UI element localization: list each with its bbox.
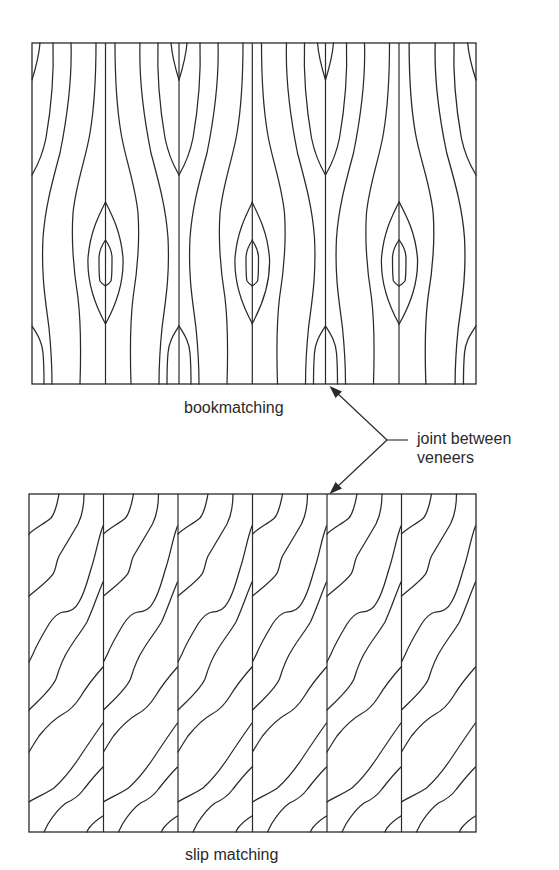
bookmatch-veneer-1: [32, 43, 106, 384]
slip-matching-caption: slip matching: [185, 845, 278, 864]
slip-matching-panel: [29, 494, 476, 832]
joint-callout-leader: [330, 386, 409, 494]
bookmatching-caption: bookmatching: [184, 398, 284, 417]
slip-veneer-4: [253, 494, 327, 832]
leader-to-slip-joint: [336, 440, 387, 488]
slip-veneer-5: [327, 494, 401, 832]
joint-callout-line-1: joint between: [417, 429, 511, 448]
bookmatch-veneer-2: [106, 43, 180, 384]
bookmatch-veneer-3: [179, 43, 253, 384]
bookmatch-veneer-4: [252, 43, 326, 384]
slip-veneer-1: [29, 494, 103, 832]
bookmatch-veneer-6: [399, 43, 476, 384]
leader-to-bookmatch-joint: [336, 392, 387, 440]
joint-callout-line-2: veneers: [417, 448, 474, 467]
bookmatch-veneer-5: [326, 43, 400, 384]
slip-veneer-6: [402, 494, 476, 832]
bookmatching-panel: [32, 43, 476, 384]
slip-veneer-2: [104, 494, 178, 832]
slip-veneer-3: [178, 494, 252, 832]
bookmatching-frame: [32, 43, 476, 384]
